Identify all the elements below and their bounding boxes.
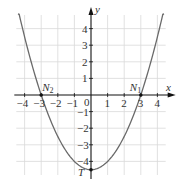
x-axis-label: x xyxy=(165,81,171,93)
svg-text:1: 1 xyxy=(82,72,88,84)
svg-text:−3: −3 xyxy=(33,97,45,109)
svg-text:3: 3 xyxy=(82,39,88,51)
svg-text:−4: −4 xyxy=(17,97,29,109)
svg-text:4: 4 xyxy=(154,97,160,109)
svg-text:N2: N2 xyxy=(41,81,53,95)
svg-text:T: T xyxy=(78,166,85,178)
svg-text:2: 2 xyxy=(121,97,127,109)
svg-text:−2: −2 xyxy=(50,97,62,109)
svg-text:−1: −1 xyxy=(77,106,89,118)
svg-text:2: 2 xyxy=(82,56,88,68)
svg-text:−2: −2 xyxy=(77,122,89,134)
svg-text:3: 3 xyxy=(138,97,144,109)
svg-text:1: 1 xyxy=(105,97,111,109)
svg-text:−3: −3 xyxy=(77,139,89,151)
y-axis-label: y xyxy=(94,3,100,15)
svg-text:N1: N1 xyxy=(129,81,141,95)
svg-text:4: 4 xyxy=(82,23,88,35)
axes xyxy=(14,7,175,179)
parabola-chart: −4−3−2−1012344321−1−2−3−4 N2N1T x y xyxy=(0,0,182,184)
